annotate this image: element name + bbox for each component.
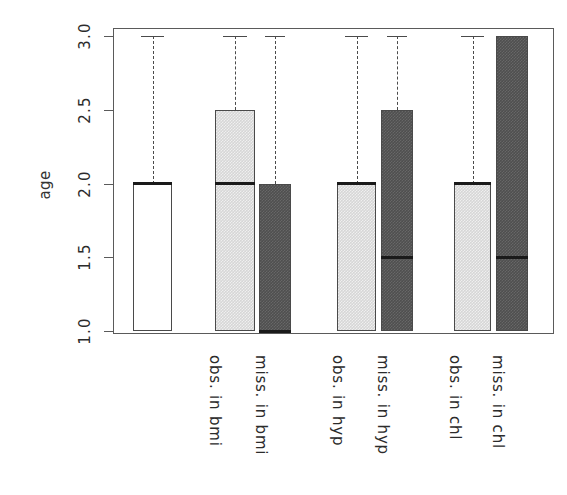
y-tick-label-2.5: 2.5 (76, 82, 94, 138)
y-tick-label-1.0: 1.0 (76, 303, 94, 359)
x-tick-label-obs-in-hyp: obs. in hyp (330, 355, 347, 495)
y-tick-mark-1.0 (104, 331, 113, 332)
box-obs-in-chl (454, 184, 491, 332)
y-tick-mark-2.5 (104, 110, 113, 111)
y-tick-mark-2.0 (104, 184, 113, 185)
median-line (259, 330, 291, 333)
y-tick-label-3.0: 3.0 (76, 8, 94, 64)
whisker-cap-upper (265, 36, 284, 37)
whisker-cap-upper (345, 36, 368, 37)
median-line (215, 182, 255, 185)
x-tick-label-obs-in-bmi: obs. in bmi (207, 355, 224, 495)
median-line (381, 256, 413, 259)
y-axis-title: age (10, 150, 80, 220)
y-tick-mark-3.0 (104, 36, 113, 37)
whisker-cap-upper (387, 36, 406, 37)
median-line (496, 256, 528, 259)
box-obs-in-hyp (337, 184, 376, 332)
whisker-cap-upper (141, 36, 164, 37)
whisker-upper (357, 36, 358, 184)
whisker-cap-upper (223, 36, 247, 37)
median-line (454, 182, 491, 185)
box-obs-in-bmi (215, 110, 255, 331)
box-miss-in-hyp (381, 110, 413, 331)
boxplot-figure: age 1.01.52.02.53.0 obs. in bmimiss. in … (0, 0, 567, 495)
x-tick-label-miss-in-chl: miss. in chl (490, 355, 507, 495)
whisker-upper (397, 36, 398, 110)
box-miss-in-bmi (259, 184, 291, 332)
x-tick-label-miss-in-hyp: miss. in hyp (375, 355, 392, 495)
whisker-upper (153, 36, 154, 184)
whisker-upper (235, 36, 236, 110)
y-tick-label-1.5: 1.5 (76, 229, 94, 285)
y-tick-label-2.0: 2.0 (76, 156, 94, 212)
x-tick-label-miss-in-bmi: miss. in bmi (253, 355, 270, 495)
whisker-upper (473, 36, 474, 184)
median-line (337, 182, 376, 185)
y-tick-mark-1.5 (104, 257, 113, 258)
whisker-cap-upper (461, 36, 483, 37)
median-line (133, 182, 172, 185)
x-tick-label-obs-in-chl: obs. in chl (447, 355, 464, 495)
box-miss-in-chl (496, 36, 528, 331)
box-all (133, 184, 172, 332)
whisker-upper (275, 36, 276, 184)
